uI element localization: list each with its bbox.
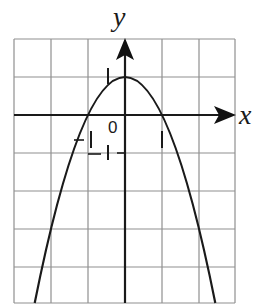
x-axis-label: x (238, 99, 252, 130)
parabola-graph: y x 0 (0, 0, 259, 308)
origin-label: 0 (108, 118, 117, 137)
y-axis-label: y (110, 1, 126, 32)
